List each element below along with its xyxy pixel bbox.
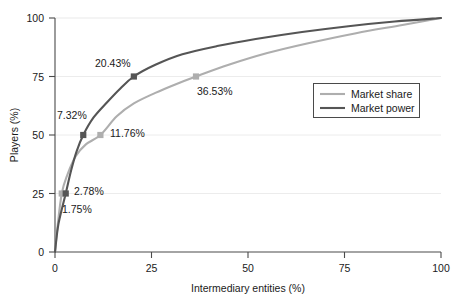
y-tick-labels: 100 75 50 25 0 xyxy=(26,12,44,258)
data-point-marker xyxy=(80,132,86,138)
legend-label-market-power: Market power xyxy=(351,102,415,114)
y-tick-label: 50 xyxy=(32,129,44,141)
y-tick-label: 0 xyxy=(38,246,44,258)
data-point-marker xyxy=(193,73,199,79)
legend-label-market-share: Market share xyxy=(351,88,412,100)
axes xyxy=(49,18,441,258)
annotation-label: 11.76% xyxy=(110,127,145,139)
chart-canvas: 100 75 50 25 0 0 25 50 75 100 Intermedia… xyxy=(0,0,460,306)
annotation-label: 36.53% xyxy=(197,85,233,97)
y-tick-label: 25 xyxy=(32,188,44,200)
annotation-label: 2.78% xyxy=(74,185,104,197)
data-point-marker xyxy=(97,132,103,138)
x-tick-label: 0 xyxy=(52,262,58,274)
x-tick-label: 75 xyxy=(339,262,351,274)
x-tick-labels: 0 25 50 75 100 xyxy=(52,262,450,274)
annotation-label: 7.32% xyxy=(57,109,87,121)
y-axis-title: Players (%) xyxy=(8,108,20,162)
legend: Market share Market power xyxy=(314,84,420,118)
annotation-label: 1.75% xyxy=(62,203,92,215)
data-point-marker xyxy=(131,73,137,79)
lorenz-curve-chart: 100 75 50 25 0 0 25 50 75 100 Intermedia… xyxy=(0,0,460,306)
y-tick-label: 75 xyxy=(32,71,44,83)
x-tick-label: 100 xyxy=(432,262,450,274)
data-point-marker xyxy=(63,190,69,196)
x-tick-label: 50 xyxy=(242,262,254,274)
y-tick-label: 100 xyxy=(26,12,44,24)
x-tick-label: 25 xyxy=(146,262,158,274)
x-axis-title: Intermediary entities (%) xyxy=(191,282,305,294)
annotation-label: 20.43% xyxy=(95,57,131,69)
